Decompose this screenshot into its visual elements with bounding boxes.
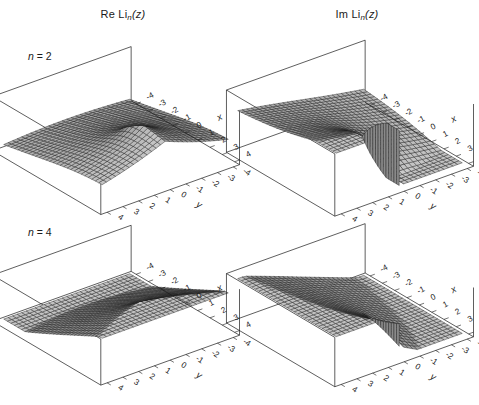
y-axis-label: y bbox=[428, 370, 440, 383]
x-tick-label: 2 bbox=[454, 136, 463, 146]
y-tick-label: 4 bbox=[350, 385, 359, 395]
x-axis-label: x bbox=[214, 110, 225, 123]
parameter-value: 2 bbox=[46, 50, 52, 62]
x-tick-label: 1 bbox=[207, 298, 216, 308]
x-tick-label: -3 bbox=[391, 270, 402, 282]
y-tick-label: 0 bbox=[179, 190, 188, 200]
x-tick-label: 0 bbox=[429, 121, 438, 131]
panel-title-im-n2: Im Lin(z) bbox=[240, 8, 474, 22]
panel-title-argument: (z) bbox=[132, 8, 145, 20]
x-tick-label: 1 bbox=[441, 129, 450, 139]
parameter-value: 4 bbox=[46, 226, 52, 238]
y-tick-label: 4 bbox=[116, 383, 125, 393]
plot-panel-im-n2: Im Lin(z)-4-3-2-101234x43210-1-2-3-4y bbox=[240, 6, 474, 204]
y-tick-label: -2 bbox=[444, 350, 455, 362]
surface-plot-re-n2: -4-3-2-101234x43210-1-2-3-4y bbox=[6, 6, 240, 204]
y-tick-label: 1 bbox=[164, 366, 173, 376]
x-tick-label: -1 bbox=[416, 114, 427, 126]
y-tick-label: 0 bbox=[179, 360, 188, 370]
panel-title-prefix: Im Li bbox=[336, 8, 361, 20]
panel-title-prefix: Re Li bbox=[101, 8, 128, 20]
x-axis-label: x bbox=[448, 112, 459, 125]
x-axis-label: x bbox=[448, 283, 459, 296]
y-tick-label: 2 bbox=[148, 372, 157, 382]
x-tick-label: -4 bbox=[145, 90, 156, 102]
y-tick-label: -1 bbox=[428, 185, 439, 197]
y-tick-label: -2 bbox=[210, 348, 221, 360]
x-tick-label: -2 bbox=[403, 277, 414, 289]
parameter-equals: = bbox=[34, 226, 46, 238]
parameter-equals: = bbox=[34, 50, 46, 62]
x-tick-label: -3 bbox=[157, 268, 168, 280]
y-tick-label: -3 bbox=[460, 174, 471, 186]
y-tick-label: -1 bbox=[194, 354, 205, 366]
series-parameter-label-re-n2: n = 2 bbox=[28, 50, 52, 62]
x-tick-label: -4 bbox=[379, 262, 390, 274]
x-tick-label: 2 bbox=[220, 305, 229, 315]
series-parameter-label-re-n4: n = 4 bbox=[28, 226, 52, 238]
y-tick-label: 1 bbox=[398, 368, 407, 378]
y-tick-label: 3 bbox=[366, 379, 375, 389]
x-tick-label: -2 bbox=[403, 106, 414, 118]
x-tick-label: -1 bbox=[416, 284, 427, 296]
y-tick-label: -3 bbox=[460, 344, 471, 356]
surface-mesh-re-n2 bbox=[4, 99, 229, 184]
plot-panel-re-n4: n = 4-4-3-2-101234x43210-1-2-3-4y bbox=[6, 200, 240, 400]
x-tick-label: 2 bbox=[454, 307, 463, 317]
y-tick-label: 0 bbox=[413, 362, 422, 372]
y-tick-label: -2 bbox=[210, 178, 221, 190]
x-tick-label: 1 bbox=[441, 299, 450, 309]
plot-panel-re-n2: Re Lin(z)n = 2-4-3-2-101234x43210-1-2-3-… bbox=[6, 6, 240, 204]
y-tick-label: -3 bbox=[226, 343, 237, 355]
surface-plot-im-n4: -4-3-2-101234x43210-1-2-3-4y bbox=[240, 200, 474, 400]
x-tick-label: -3 bbox=[391, 99, 402, 111]
y-tick-label: 3 bbox=[132, 377, 141, 387]
x-tick-label: -4 bbox=[145, 261, 156, 273]
plot-panel-im-n4: -4-3-2-101234x43210-1-2-3-4y bbox=[240, 200, 474, 400]
y-axis-label: y bbox=[194, 368, 206, 381]
x-tick-label: -3 bbox=[157, 97, 168, 109]
y-tick-label: -3 bbox=[226, 172, 237, 184]
surface-mesh-im-n4 bbox=[238, 275, 463, 349]
y-tick-label: -4 bbox=[475, 168, 479, 180]
y-tick-label: -1 bbox=[194, 183, 205, 195]
branch-cut-wall bbox=[362, 123, 399, 186]
surface-plot-im-n2: -4-3-2-101234x43210-1-2-3-4y bbox=[240, 6, 474, 204]
surface-mesh-re-n4 bbox=[4, 274, 229, 339]
panel-title-re-n2: Re Lin(z) bbox=[6, 8, 240, 22]
y-tick-label: -4 bbox=[475, 339, 479, 351]
y-tick-label: -2 bbox=[444, 179, 455, 191]
x-tick-label: 0 bbox=[429, 292, 438, 302]
y-tick-label: 2 bbox=[382, 373, 391, 383]
x-tick-label: -2 bbox=[169, 275, 180, 287]
polylogarithm-surface-figure: Re Lin(z)n = 2-4-3-2-101234x43210-1-2-3-… bbox=[0, 0, 479, 405]
panel-title-argument: (z) bbox=[365, 8, 378, 20]
y-tick-label: -1 bbox=[428, 356, 439, 368]
surface-mesh-im-n2 bbox=[238, 89, 463, 185]
